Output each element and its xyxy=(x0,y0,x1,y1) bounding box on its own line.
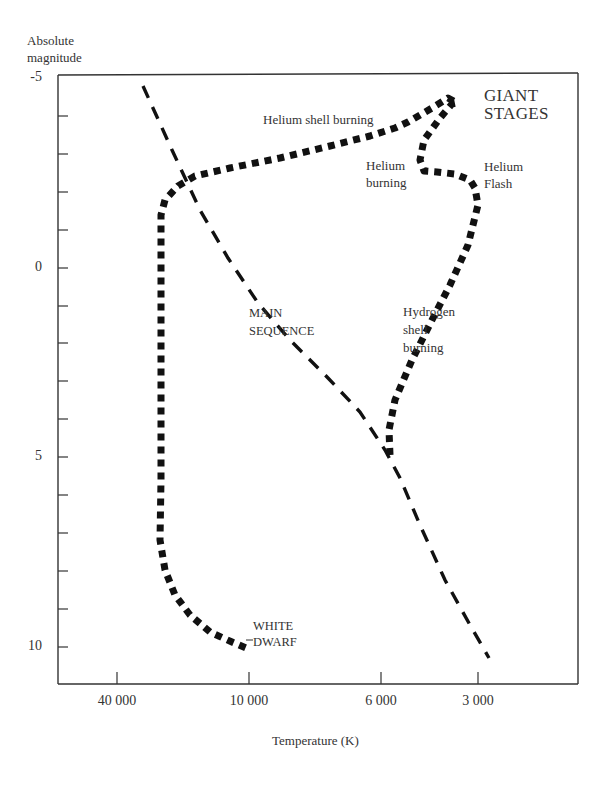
evolutionary-track-line xyxy=(160,98,478,648)
main-sequence-label-line2: SEQUENCE xyxy=(249,324,314,339)
helium-flash-label-line2: Flash xyxy=(484,176,512,191)
y-tick-label: 5 xyxy=(12,448,42,464)
helium-shell-burning-label: Helium shell burning xyxy=(263,112,374,127)
hydrogen-shell-label-line3: burning xyxy=(403,340,443,355)
y-tick-label: 0 xyxy=(12,259,42,275)
x-tick-label: 6 000 xyxy=(341,693,421,709)
x-tick-label: 40 000 xyxy=(77,693,157,709)
giant-stages-label-line2: STAGES xyxy=(484,104,549,124)
hydrogen-shell-label-line2: shell xyxy=(403,322,428,337)
y-axis-title-line1: Absolute xyxy=(27,33,74,48)
helium-burning-label-line1: Helium xyxy=(366,158,405,173)
helium-flash-label-line1: Helium xyxy=(484,159,523,174)
y-tick-label: 10 xyxy=(12,638,42,654)
x-tick-label: 3 000 xyxy=(438,693,518,709)
x-tick-label: 10 000 xyxy=(209,693,289,709)
x-axis-ticks xyxy=(117,672,478,684)
y-axis-ticks xyxy=(58,116,68,647)
helium-burning-label-line2: burning xyxy=(366,175,406,190)
frame-top xyxy=(58,73,578,75)
hydrogen-shell-label-line1: Hydrogen xyxy=(403,304,455,319)
main-sequence-label-line1: MAIN xyxy=(249,306,282,321)
giant-stages-label-line1: GIANT xyxy=(484,86,538,106)
x-axis-title: Temperature (K) xyxy=(272,733,359,748)
y-axis-title-line2: magnitude xyxy=(27,50,82,65)
y-tick-label: -5 xyxy=(12,69,42,85)
white-dwarf-label-line1: WHITE xyxy=(253,619,293,634)
white-dwarf-label-line2: DWARF xyxy=(253,635,297,650)
